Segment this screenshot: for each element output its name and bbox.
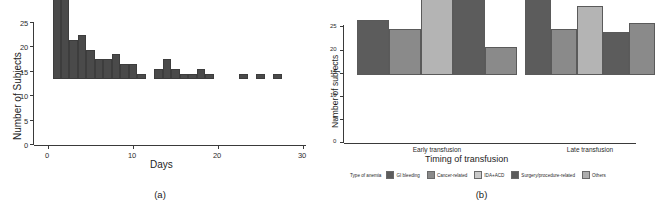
grouped-bar: [357, 20, 389, 75]
panel-b-group-label-late: Late transfusion: [540, 146, 640, 153]
legend-item-surgery-procedure-related[interactable]: Surgery/procedure-related: [511, 171, 575, 179]
legend-swatch-icon: [474, 171, 482, 179]
panel-a-x-tickmark-10: [133, 146, 134, 149]
panel-b-legend: Type of anemia GI bleeding Cancer-relate…: [350, 171, 610, 179]
histogram-bar: [188, 74, 197, 79]
histogram-bar: [197, 69, 205, 79]
histogram-bar: [103, 59, 112, 79]
panel-b-group-label-early: Early transfusion: [387, 146, 487, 153]
histogram-bar: [163, 59, 171, 79]
histogram-bar: [129, 64, 137, 79]
histogram-bar: [239, 74, 248, 79]
grouped-bar: [485, 47, 517, 75]
histogram-bar: [61, 0, 69, 79]
legend-swatch-icon: [386, 171, 394, 179]
histogram-bar: [256, 74, 265, 79]
legend-label: IDA+ACD: [484, 173, 504, 178]
panel-a-caption: (a): [0, 189, 320, 200]
panel-b-caption: (b): [320, 189, 643, 200]
grouped-bar: [453, 0, 485, 75]
histogram-bar: [154, 69, 163, 79]
legend-swatch-icon: [427, 171, 435, 179]
legend-item-ida-acd[interactable]: IDA+ACD: [474, 171, 504, 179]
grouped-bar: [389, 29, 421, 75]
panel-a-histogram: Number of Subjects 0 5 10 15 20 25 0 10 …: [0, 0, 320, 212]
histogram-bar: [180, 74, 188, 79]
panel-b-grouped-bar: Number of subjects 0 5 10 15 20 25: [320, 0, 643, 212]
panel-a-plot-area: [0, 0, 320, 146]
histogram-bar: [120, 64, 129, 79]
grouped-bar: [603, 32, 629, 75]
panel-a-x-tick-10: 10: [128, 151, 136, 160]
histogram-bar: [95, 59, 103, 79]
panel-b-plot-area: [320, 0, 643, 144]
grouped-bar: [577, 6, 603, 75]
panel-a-x-tickmark-0: [48, 146, 49, 149]
legend-item-cancer-related[interactable]: Cancer-related: [427, 171, 467, 179]
histogram-bar: [69, 40, 78, 79]
histogram-bar: [171, 69, 180, 79]
legend-title: Type of anemia: [350, 173, 381, 178]
legend-swatch-icon: [511, 171, 519, 179]
grouped-bar: [629, 23, 655, 75]
histogram-bar: [273, 74, 282, 79]
histogram-bar: [205, 74, 214, 79]
panel-a-x-tick-30: 30: [298, 151, 306, 160]
histogram-bar: [53, 0, 61, 79]
histogram-bar: [78, 35, 86, 79]
legend-label: GI bleeding: [396, 173, 420, 178]
legend-label: Cancer-related: [437, 173, 467, 178]
grouped-bar: [525, 0, 551, 75]
panel-a-x-tick-20: 20: [213, 151, 221, 160]
panel-a-x-axis-title: Days: [150, 159, 173, 170]
panel-a-x-tickmark-20: [218, 146, 219, 149]
histogram-bar: [112, 54, 120, 79]
panel-a-x-tickmark-30: [303, 146, 304, 149]
legend-item-gi-bleeding[interactable]: GI bleeding: [386, 171, 420, 179]
grouped-bar: [421, 0, 453, 75]
legend-swatch-icon: [582, 171, 590, 179]
legend-item-others[interactable]: Others: [582, 171, 606, 179]
grouped-bar: [551, 29, 577, 75]
panel-a-x-tick-0: 0: [45, 151, 49, 160]
legend-label: Others: [592, 173, 606, 178]
histogram-bar: [86, 50, 95, 79]
legend-label: Surgery/procedure-related: [521, 173, 575, 178]
histogram-bar: [137, 74, 146, 79]
panel-b-x-axis-title: Timing of transfusion: [425, 154, 508, 164]
